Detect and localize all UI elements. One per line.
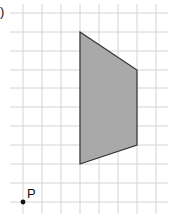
point-p-dot [21, 200, 26, 205]
shaded-trapezium [80, 32, 137, 164]
point-p-label: P [27, 186, 36, 201]
corner-mark: ) [0, 4, 4, 19]
grid-diagram: P ) [0, 0, 171, 220]
